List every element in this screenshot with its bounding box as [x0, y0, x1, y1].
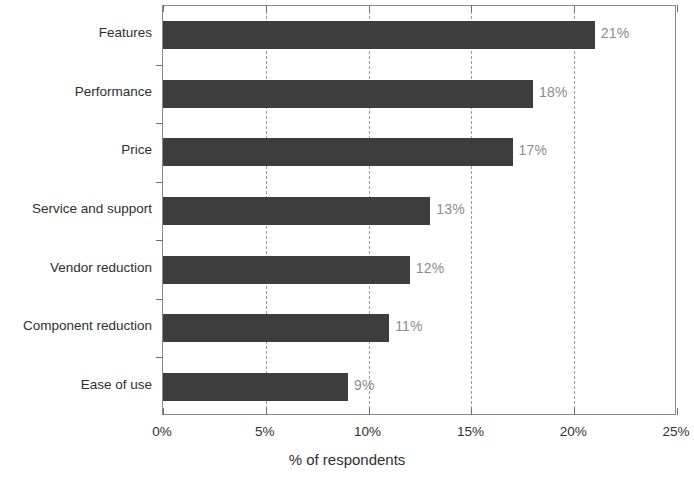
gridline: [471, 6, 472, 414]
axis-tick: [574, 5, 575, 12]
bar: [163, 21, 595, 49]
category-label: Component reduction: [0, 318, 152, 333]
bar: [163, 197, 430, 225]
bar-value-label: 18%: [539, 84, 568, 100]
plot-area: [162, 5, 676, 415]
bar-value-label: 13%: [436, 201, 465, 217]
x-tick-label: 0%: [152, 424, 172, 439]
bar: [163, 138, 513, 166]
x-tick-label: 5%: [255, 424, 275, 439]
bar: [163, 80, 533, 108]
y-axis-tick: [156, 182, 163, 183]
bar: [163, 314, 389, 342]
axis-tick: [266, 408, 267, 415]
y-axis-tick: [156, 299, 163, 300]
bar-value-label: 11%: [395, 318, 423, 334]
bar-chart-figure: FeaturesPerformancePriceService and supp…: [0, 0, 694, 479]
category-label: Price: [0, 142, 152, 157]
axis-tick: [574, 408, 575, 415]
axis-tick: [471, 5, 472, 12]
category-label: Service and support: [0, 201, 152, 216]
y-axis-tick: [156, 65, 163, 66]
axis-tick: [471, 408, 472, 415]
y-axis-tick: [156, 240, 163, 241]
bar: [163, 373, 348, 401]
bar-value-label: 12%: [416, 260, 445, 276]
x-tick-label: 15%: [457, 424, 484, 439]
x-tick-label: 25%: [662, 424, 689, 439]
axis-tick: [163, 5, 164, 12]
x-axis-title: % of respondents: [0, 451, 694, 468]
axis-tick: [677, 5, 678, 12]
axis-tick: [163, 408, 164, 415]
category-label: Ease of use: [0, 377, 152, 392]
x-tick-label: 10%: [354, 424, 381, 439]
axis-tick: [266, 5, 267, 12]
x-tick-label: 20%: [560, 424, 587, 439]
category-label: Vendor reduction: [0, 260, 152, 275]
bar-value-label: 21%: [601, 25, 630, 41]
bar: [163, 256, 410, 284]
category-label: Performance: [0, 84, 152, 99]
bar-value-label: 17%: [519, 142, 548, 158]
axis-tick: [369, 408, 370, 415]
y-axis-tick: [156, 123, 163, 124]
gridline: [574, 6, 575, 414]
bar-value-label: 9%: [354, 377, 375, 393]
axis-tick: [369, 5, 370, 12]
category-label: Features: [0, 25, 152, 40]
y-axis-tick: [156, 357, 163, 358]
axis-tick: [677, 408, 678, 415]
